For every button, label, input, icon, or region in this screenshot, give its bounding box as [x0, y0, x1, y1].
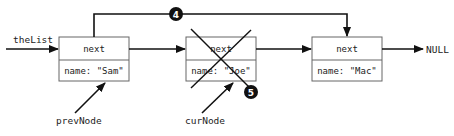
null-label: NULL [426, 44, 449, 55]
svg-text:5: 5 [248, 88, 254, 98]
step-badge-4: 4 [169, 7, 183, 21]
svg-text:4: 4 [173, 10, 179, 20]
prev-node-label: prevNode [56, 115, 102, 126]
bypass-arrow [94, 14, 347, 37]
cur-node-label: curNode [185, 115, 225, 126]
cur-node-pointer: curNode [185, 83, 233, 126]
node-sam: next name: "Sam" [59, 37, 129, 81]
node-joe: next name: "Joe" [186, 29, 256, 89]
head-pointer: theList [6, 34, 58, 49]
node-name-field: name: "Mac" [317, 66, 377, 76]
node-name-field: name: "Sam" [64, 66, 124, 76]
prev-node-pointer: prevNode [56, 83, 105, 126]
node-next-field: next [336, 44, 358, 54]
node-mac: next name: "Mac" [312, 37, 382, 81]
linked-list-diagram: theList next name: "Sam" next name: "Joe… [0, 0, 454, 136]
head-label: theList [13, 34, 53, 45]
step-badge-5: 5 [244, 85, 258, 99]
node-next-field: next [83, 44, 105, 54]
node-name-field: name: "Joe" [191, 66, 251, 76]
